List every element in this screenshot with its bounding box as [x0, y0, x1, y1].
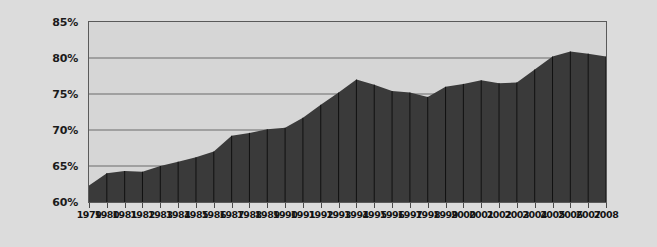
- x-axis-tick: [285, 203, 286, 208]
- x-axis-tick: [481, 203, 482, 208]
- x-axis-tick: [196, 203, 197, 208]
- x-axis-tick: [303, 203, 304, 208]
- x-axis-tick: [517, 203, 518, 208]
- y-axis-tick-label: 75%: [52, 89, 78, 100]
- x-axis-tick: [588, 203, 589, 208]
- x-axis-tick: [374, 203, 375, 208]
- x-axis-tick: [499, 203, 500, 208]
- x-axis-tick: [356, 203, 357, 208]
- plot-area: [88, 21, 607, 203]
- y-axis-tick-label: 60%: [52, 197, 78, 208]
- y-axis-tick-label: 85%: [52, 17, 78, 28]
- x-axis-tick: [142, 203, 143, 208]
- x-axis-tick: [535, 203, 536, 208]
- area-chart: 60%65%70%75%80%85% 197919801981198219831…: [0, 0, 657, 247]
- x-axis-labels: 1979198019811982198319841985198619871988…: [88, 203, 607, 245]
- plot-svg: [89, 22, 606, 202]
- x-axis-tick-label: 2008: [594, 210, 619, 220]
- x-axis-tick: [392, 203, 393, 208]
- x-axis-tick: [428, 203, 429, 208]
- x-axis-tick: [570, 203, 571, 208]
- x-axis-tick: [339, 203, 340, 208]
- x-axis-tick: [463, 203, 464, 208]
- x-axis-tick: [249, 203, 250, 208]
- x-axis-tick: [410, 203, 411, 208]
- y-axis-tick-label: 70%: [52, 125, 78, 136]
- x-axis-tick: [232, 203, 233, 208]
- y-axis-tick-label: 65%: [52, 161, 78, 172]
- x-axis-tick: [321, 203, 322, 208]
- x-axis-tick: [89, 203, 90, 208]
- area-series-path: [89, 52, 606, 202]
- y-axis-tick-label: 80%: [52, 53, 78, 64]
- x-axis-tick: [267, 203, 268, 208]
- x-axis-tick: [446, 203, 447, 208]
- x-axis-tick: [107, 203, 108, 208]
- x-axis-tick: [214, 203, 215, 208]
- y-axis-labels: 60%65%70%75%80%85%: [0, 0, 86, 247]
- x-axis-tick: [125, 203, 126, 208]
- x-axis-tick: [553, 203, 554, 208]
- x-axis-tick: [606, 203, 607, 208]
- x-axis-tick: [178, 203, 179, 208]
- x-axis-tick: [160, 203, 161, 208]
